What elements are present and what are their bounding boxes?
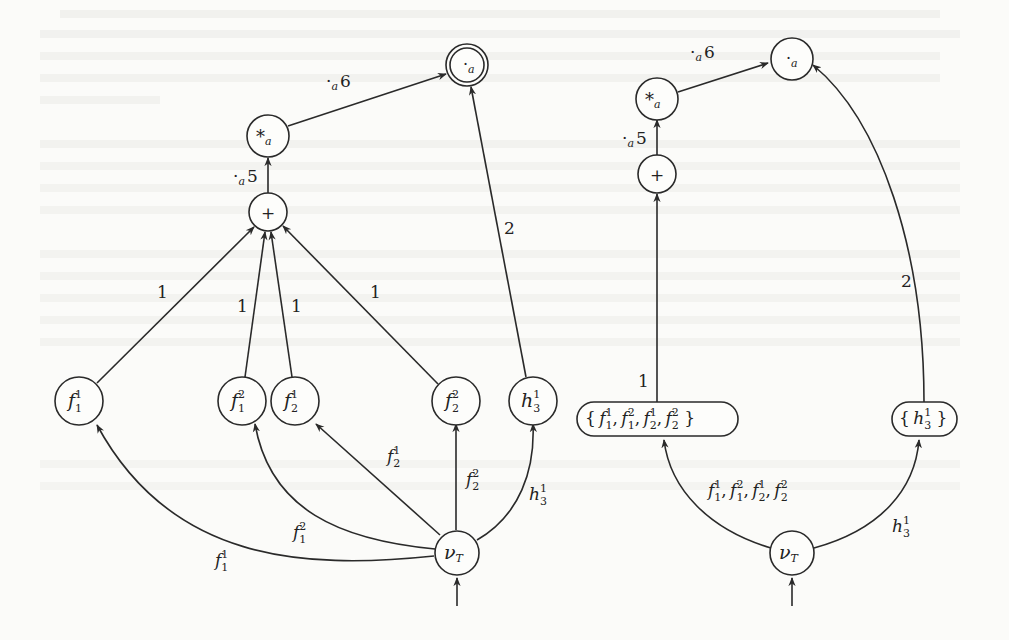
label-nu-to-hset: h13 xyxy=(892,514,910,540)
left-graph: ·a *a + f11 f21 f12 f22 h13 xyxy=(55,44,557,606)
label-f11-to-plus: 1 xyxy=(157,282,168,302)
svg-text:+: + xyxy=(650,165,664,185)
node-plus[interactable]: + xyxy=(249,193,287,231)
edge-hset-to-output xyxy=(813,65,924,402)
svg-text:f21: f21 xyxy=(229,388,245,415)
node-output-r[interactable]: ·a xyxy=(771,38,813,80)
node-h31[interactable]: h13 xyxy=(509,377,557,425)
node-nu-t[interactable]: νT xyxy=(435,531,479,575)
page-bleed-through xyxy=(40,10,960,490)
edge-f22-to-plus xyxy=(283,226,438,384)
node-plus-r[interactable]: + xyxy=(638,155,676,193)
node-f12[interactable]: f21 xyxy=(218,377,266,425)
label-nu-to-f11: f11 xyxy=(213,548,228,574)
svg-text:f22: f22 xyxy=(443,388,459,415)
node-f22[interactable]: f22 xyxy=(432,377,480,425)
label-f21-to-plus: 1 xyxy=(291,296,302,316)
automaton-diagram: ·a *a + f11 f21 f12 f22 h13 xyxy=(0,0,1009,640)
edge-nu-to-f21 xyxy=(316,424,440,535)
node-star[interactable]: *a xyxy=(247,115,289,157)
label-f22-to-plus: 1 xyxy=(370,282,381,302)
edge-h31-to-output xyxy=(471,87,526,377)
svg-text:f12: f12 xyxy=(282,388,298,415)
node-f21[interactable]: f12 xyxy=(271,377,319,425)
label-h31-to-output: 2 xyxy=(504,218,515,238)
label-f12-to-plus: 1 xyxy=(237,296,248,316)
label-nu-to-fset: f11, f21, f12, f22 xyxy=(706,478,788,504)
label-hset-to-output: 2 xyxy=(901,271,912,291)
node-star-r[interactable]: *a xyxy=(636,78,678,120)
label-fset-to-plus: 1 xyxy=(638,371,649,391)
svg-text:h13: h13 xyxy=(521,388,540,415)
label-nu-to-h31: h13 xyxy=(529,482,547,508)
edge-nu-to-f11 xyxy=(97,425,434,561)
node-f11[interactable]: f11 xyxy=(55,377,103,425)
node-hset[interactable]: { h13 } xyxy=(892,402,957,436)
node-fset[interactable]: { f11, f21, f12, f22 } xyxy=(577,402,738,436)
svg-text:f11: f11 xyxy=(66,388,82,415)
svg-text:+: + xyxy=(261,203,275,223)
node-nu-t-r[interactable]: νT xyxy=(770,531,814,575)
node-output-final[interactable]: ·a xyxy=(446,44,488,86)
label-nu-to-f12: f21 xyxy=(291,520,306,546)
